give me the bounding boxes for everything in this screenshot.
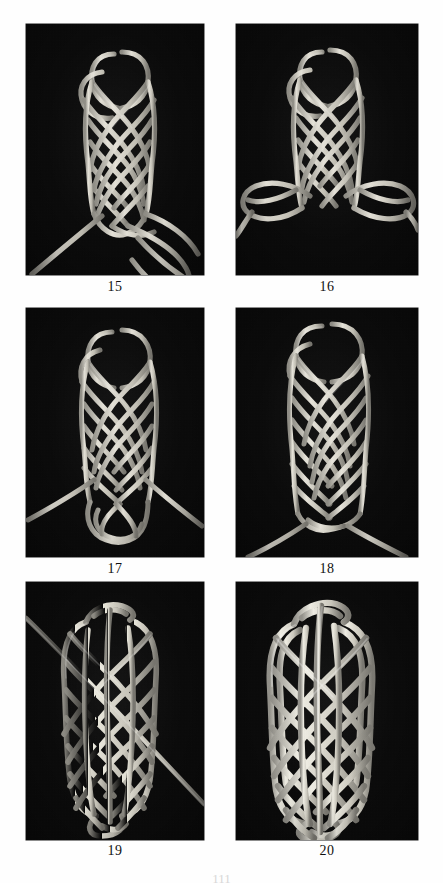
- knot-illustration-19: [26, 582, 204, 840]
- figure-20: 20: [236, 582, 418, 840]
- knot-illustration-17: [26, 308, 204, 557]
- photo-19: [26, 582, 204, 840]
- photo-20: [236, 582, 418, 840]
- figure-caption-15: 15: [26, 279, 204, 295]
- figure-caption-20: 20: [236, 843, 418, 859]
- figure-16: 16: [236, 24, 418, 275]
- page-number: 111: [0, 871, 443, 883]
- photo-18: [236, 308, 418, 557]
- figure-17: 17: [26, 308, 204, 557]
- knot-illustration-20: [236, 582, 418, 840]
- figure-19: 19: [26, 582, 204, 840]
- figure-caption-16: 16: [236, 279, 418, 295]
- figure-15: 15: [26, 24, 204, 275]
- photo-17: [26, 308, 204, 557]
- photo-16: [236, 24, 418, 275]
- knot-illustration-18: [236, 308, 418, 557]
- knot-illustration-15: [26, 24, 204, 275]
- figure-caption-18: 18: [236, 561, 418, 577]
- figure-caption-19: 19: [26, 843, 204, 859]
- photo-15: [26, 24, 204, 275]
- book-page: 15: [0, 0, 443, 883]
- knot-illustration-16: [236, 24, 418, 275]
- figure-caption-17: 17: [26, 561, 204, 577]
- figure-18: 18: [236, 308, 418, 557]
